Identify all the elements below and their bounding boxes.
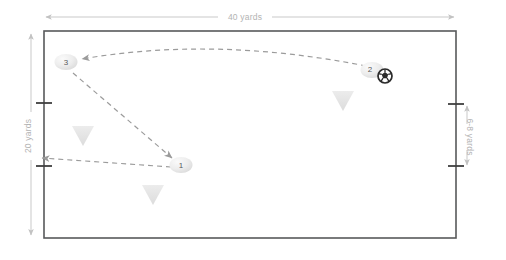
player-2-label: 2 (368, 65, 373, 74)
player-1[interactable]: 1 (170, 157, 193, 173)
drill-canvas: 40 yards 20 yards 6-8 yards (0, 0, 506, 260)
gate-dimension: 6-8 yards (465, 106, 475, 165)
width-dimension-label: 40 yards (228, 12, 262, 22)
playing-area (44, 31, 456, 238)
player-3[interactable]: 3 (55, 54, 78, 70)
width-dimension: 40 yards (46, 12, 454, 22)
gate-dimension-label: 6-8 yards (465, 118, 475, 155)
soccer-drill-diagram: 40 yards 20 yards 6-8 yards (0, 0, 506, 260)
player-3-label: 3 (64, 58, 69, 67)
player-1-label: 1 (179, 161, 184, 170)
soccer-ball-icon (378, 69, 392, 83)
height-dimension-label: 20 yards (23, 119, 33, 153)
height-dimension: 20 yards (23, 34, 33, 235)
